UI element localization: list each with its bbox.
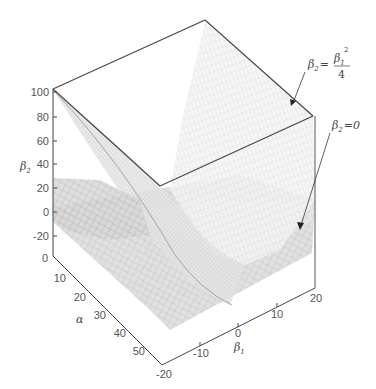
svg-text:20: 20	[37, 182, 49, 194]
svg-text:40: 40	[37, 158, 49, 170]
svg-text:60: 60	[37, 135, 49, 147]
alpha-axis-title: α	[76, 313, 84, 326]
svg-text:β2=: β2=	[307, 58, 329, 73]
svg-text:10: 10	[54, 272, 66, 284]
svg-text:0: 0	[235, 327, 241, 339]
svg-text:4: 4	[338, 68, 345, 81]
svg-text:20: 20	[74, 291, 86, 303]
svg-text:40: 40	[114, 327, 126, 339]
z-axis-title: β2	[19, 160, 31, 175]
annotation-parabola: β2= β1 2 4	[290, 46, 350, 106]
svg-text:10: 10	[271, 308, 283, 320]
svg-text:-20: -20	[156, 368, 172, 380]
svg-text:2: 2	[344, 46, 348, 54]
z-axis-ticks: 100 80 60 40 20 0 -20	[31, 86, 49, 242]
svg-text:β2=0: β2=0	[331, 119, 360, 134]
svg-text:β1: β1	[333, 52, 345, 67]
svg-text:30: 30	[94, 309, 106, 321]
svg-text:0: 0	[43, 206, 49, 218]
beta1-axis-title: β1	[233, 341, 245, 356]
svg-text:100: 100	[31, 86, 49, 98]
z-axis	[53, 89, 57, 256]
svg-text:-10: -10	[193, 347, 209, 359]
svg-text:-20: -20	[33, 230, 49, 242]
svg-text:50: 50	[133, 345, 145, 357]
surface-plot: 100 80 60 40 20 0 -20 β2 0 10 20 30 40 5…	[0, 0, 376, 389]
svg-text:0: 0	[42, 252, 48, 264]
svg-text:80: 80	[37, 111, 49, 123]
svg-text:20: 20	[310, 292, 322, 304]
